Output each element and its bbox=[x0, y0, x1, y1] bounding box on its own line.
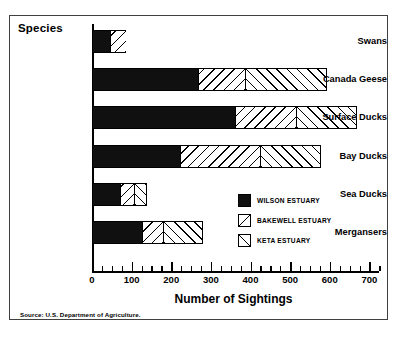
x-tick-minor bbox=[161, 266, 162, 271]
x-tick-major bbox=[290, 262, 291, 271]
x-tick-major bbox=[251, 262, 252, 271]
bar-segment-bakewell bbox=[235, 106, 296, 129]
x-tick-major bbox=[92, 262, 93, 271]
legend-item: BAKEWELL ESTUARY bbox=[238, 214, 378, 227]
x-tick-minor bbox=[221, 266, 222, 271]
x-tick-minor bbox=[260, 266, 261, 271]
legend-label: WILSON ESTUARY bbox=[257, 197, 320, 204]
y-axis-title: Species bbox=[18, 22, 63, 34]
x-tick-label: 300 bbox=[203, 274, 219, 285]
x-tick-major bbox=[369, 262, 370, 271]
category-label: Surface Ducks bbox=[309, 112, 387, 122]
x-tick-label: 100 bbox=[124, 274, 140, 285]
x-tick-minor bbox=[270, 266, 271, 271]
x-tick-minor bbox=[300, 266, 301, 271]
x-tick-minor bbox=[379, 266, 380, 271]
category-label: Swans bbox=[309, 36, 387, 46]
category-label: Canada Geese bbox=[309, 74, 387, 84]
x-tick-minor bbox=[142, 266, 143, 271]
x-tick-minor bbox=[340, 266, 341, 271]
source-note: Source: U.S. Department of Agriculture. bbox=[20, 311, 141, 318]
legend-item: WILSON ESTUARY bbox=[238, 194, 378, 207]
x-axis-line bbox=[92, 271, 379, 273]
x-tick-minor bbox=[112, 266, 113, 271]
bar-row bbox=[92, 145, 321, 168]
bar-row bbox=[92, 30, 126, 53]
bar-segment-wilson bbox=[92, 183, 120, 206]
chart-legend: WILSON ESTUARYBAKEWELL ESTUARYKETA ESTUA… bbox=[238, 194, 378, 254]
legend-label: BAKEWELL ESTUARY bbox=[257, 217, 331, 224]
bar-segment-bakewell bbox=[180, 145, 259, 168]
category-label: Bay Ducks bbox=[309, 151, 387, 161]
x-tick-minor bbox=[191, 266, 192, 271]
x-tick-minor bbox=[181, 266, 182, 271]
x-tick-major bbox=[211, 262, 212, 271]
x-tick-major bbox=[330, 262, 331, 271]
x-tick-minor bbox=[350, 266, 351, 271]
x-tick-minor bbox=[122, 266, 123, 271]
x-tick-major bbox=[171, 262, 172, 271]
x-tick-minor bbox=[151, 266, 152, 271]
x-tick-minor bbox=[231, 266, 232, 271]
bar-segment-bakewell bbox=[120, 183, 134, 206]
legend-swatch-keta bbox=[238, 234, 251, 247]
x-tick-minor bbox=[102, 266, 103, 271]
legend-item: KETA ESTUARY bbox=[238, 234, 378, 247]
legend-swatch-bakewell bbox=[238, 214, 251, 227]
bar-row bbox=[92, 221, 203, 244]
x-tick-label: 600 bbox=[322, 274, 338, 285]
x-tick-label: 200 bbox=[163, 274, 179, 285]
bar-segment-wilson bbox=[92, 221, 142, 244]
x-tick-minor bbox=[201, 266, 202, 271]
x-tick-minor bbox=[360, 266, 361, 271]
x-tick-minor bbox=[241, 266, 242, 271]
bar-segment-wilson bbox=[92, 145, 180, 168]
x-tick-label: 700 bbox=[361, 274, 377, 285]
bar-segment-wilson bbox=[92, 30, 110, 53]
legend-label: KETA ESTUARY bbox=[257, 237, 310, 244]
bar-segment-bakewell bbox=[142, 221, 164, 244]
bar-segment-bakewell bbox=[198, 68, 244, 91]
x-tick-minor bbox=[310, 266, 311, 271]
x-axis-title: Number of Sightings bbox=[10, 292, 387, 306]
bar-row bbox=[92, 183, 147, 206]
bar-segment-bakewell bbox=[110, 30, 126, 53]
bar-segment-wilson bbox=[92, 106, 235, 129]
bar-segment-wilson bbox=[92, 68, 198, 91]
x-tick-minor bbox=[320, 266, 321, 271]
bar-row bbox=[92, 68, 327, 91]
x-tick-label: 500 bbox=[282, 274, 298, 285]
chart-figure: Species SwansCanada GeeseSurface DucksBa… bbox=[9, 15, 388, 320]
bar-segment-keta bbox=[163, 221, 203, 244]
bar-segment-keta bbox=[134, 183, 147, 206]
x-tick-minor bbox=[280, 266, 281, 271]
legend-swatch-wilson bbox=[238, 194, 251, 207]
x-tick-label: 0 bbox=[89, 274, 94, 285]
x-tick-label: 400 bbox=[243, 274, 259, 285]
x-tick-major bbox=[132, 262, 133, 271]
